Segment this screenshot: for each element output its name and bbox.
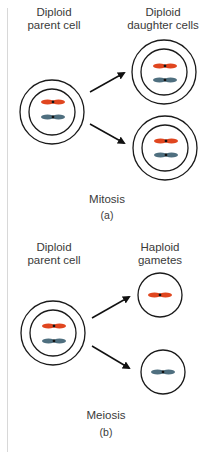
red-chromosome-icon <box>148 292 172 297</box>
red-chromosome-icon <box>154 138 178 143</box>
red-chromosome-icon <box>41 99 65 104</box>
arrow-icon <box>90 73 124 92</box>
blue-chromosome-icon <box>41 114 65 119</box>
mitosis-daughter-cell-top <box>132 40 196 104</box>
blue-chromosome-icon <box>154 152 178 157</box>
meiosis-gamete-top <box>138 273 182 317</box>
blue-chromosome-icon <box>151 369 175 374</box>
red-chromosome-icon <box>42 323 66 328</box>
mitosis-parent-cell <box>20 80 84 144</box>
arrow-icon <box>90 124 124 143</box>
blue-chromosome-icon <box>153 77 177 82</box>
red-chromosome-icon <box>153 63 177 68</box>
cell-division-diagram <box>0 0 206 452</box>
arrow-icon <box>92 297 129 318</box>
blue-chromosome-icon <box>42 338 66 343</box>
meiosis-parent-cell <box>21 301 85 365</box>
meiosis-gamete-bottom <box>141 350 185 394</box>
mitosis-daughter-cell-bottom <box>133 116 197 180</box>
arrow-icon <box>92 346 129 368</box>
